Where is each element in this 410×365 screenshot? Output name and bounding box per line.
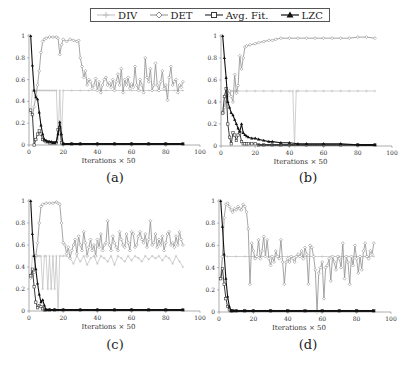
- x-tick-label: 80: [353, 315, 361, 322]
- x-tick-label: 60: [318, 315, 326, 322]
- panel-caption-b: (b): [288, 170, 328, 185]
- y-tick-label: 0.2: [205, 286, 215, 293]
- panel-caption-d: (d): [288, 337, 328, 352]
- panel-caption-c: (c): [95, 337, 135, 352]
- y-tick-label: 0: [211, 308, 215, 315]
- y-tick-label: 0.8: [205, 219, 215, 226]
- x-tick-label: 0: [217, 315, 221, 322]
- x-tick-label: 20: [250, 315, 258, 322]
- x-axis-label: Iterations × 50: [272, 324, 326, 332]
- chart-svg: 02040608010000.20.40.60.81Iterations × 5…: [0, 0, 410, 365]
- series-det: [219, 202, 375, 314]
- y-tick-label: 1: [211, 197, 215, 204]
- panel-caption-a: (a): [95, 170, 135, 185]
- series-avg-fit: [220, 268, 375, 313]
- y-tick-label: 0.6: [205, 241, 215, 248]
- y-tick-label: 0.4: [205, 264, 215, 271]
- x-tick-label: 40: [284, 315, 292, 322]
- x-tick-label: 100: [385, 315, 397, 322]
